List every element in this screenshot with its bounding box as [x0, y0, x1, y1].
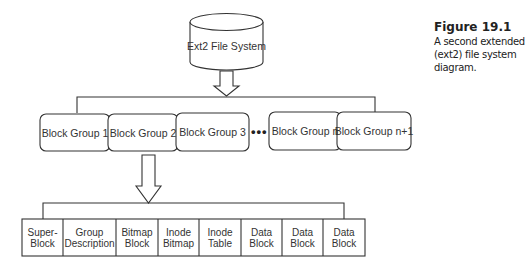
caption-line-3: diagram.: [434, 61, 528, 74]
cell-line: Inode: [207, 227, 232, 238]
cell-line: Block: [125, 238, 149, 249]
cell-line: Block: [332, 238, 356, 249]
cell-line: Description: [64, 238, 114, 249]
block-group-3-label: Block Group 3: [176, 113, 249, 151]
cell-line: Table: [208, 238, 232, 249]
cell-data-block-2: Data Block: [282, 219, 323, 256]
figure-caption: Figure 19.1 A second extended (ext2) fil…: [434, 20, 528, 74]
down-arrow-2: [136, 155, 161, 203]
cell-inode-bitmap: Inode Bitmap: [158, 219, 199, 256]
cell-line: Bitmap: [163, 238, 194, 249]
cell-group-description: Group Description: [63, 219, 116, 256]
cell-line: Inode: [166, 227, 191, 238]
block-group-1-label: Block Group 1: [40, 114, 110, 151]
cell-line: Data: [333, 227, 354, 238]
caption-line-1: A second extended: [434, 35, 528, 48]
cell-line: Data: [251, 227, 272, 238]
cell-line: Block: [249, 238, 273, 249]
ext2-file-system-label: Ext2 File System: [190, 36, 263, 56]
cell-bitmap-block: Bitmap Block: [116, 219, 158, 256]
ellipsis: •••: [251, 124, 268, 139]
cell-data-block-3: Data Block: [323, 219, 365, 256]
down-arrow-1: [214, 71, 239, 96]
cell-inode-table: Inode Table: [199, 219, 241, 256]
cell-line: Block: [290, 238, 314, 249]
block-group-n1-label: Block Group n+1: [337, 112, 411, 150]
cell-super-block: Super- Block: [22, 219, 63, 256]
connector-block-groups: [77, 97, 375, 113]
cell-line: Bitmap: [121, 227, 152, 238]
cell-line: Block: [30, 238, 54, 249]
block-group-2-label: Block Group 2: [108, 114, 178, 151]
caption-line-2: (ext2) file system: [434, 48, 528, 61]
block-group-n-label: Block Group n: [269, 112, 341, 150]
cell-line: Data: [292, 227, 313, 238]
connector-layout: [43, 203, 344, 219]
figure-label: Figure 19.1: [434, 20, 528, 35]
cell-line: Super-: [27, 227, 57, 238]
cell-data-block-1: Data Block: [241, 219, 282, 256]
cell-line: Group: [76, 227, 104, 238]
